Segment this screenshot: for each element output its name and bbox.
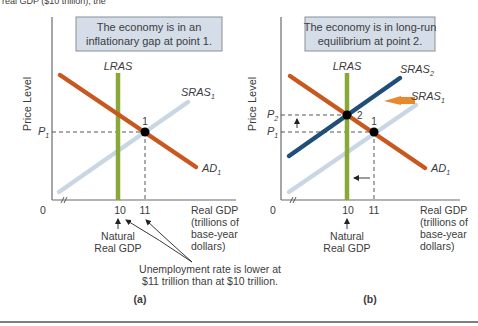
panel-b-x-axis-label: Real GDP (trillions of base-year dollars… [420, 204, 471, 252]
top-fragment-text: real GDP ($10 trillion), the [2, 0, 106, 6]
panel-b-ad1-label: AD1 [430, 162, 450, 176]
panel-a-origin-label: 0 [40, 204, 46, 216]
panel-b-p1-label: P1 [267, 125, 278, 139]
panel-b-box-line1: The economy is in long-run [304, 21, 437, 33]
panel-b-tick-10: 10 [342, 204, 354, 216]
panel-a-box-line2: inflationary gap at point 1. [86, 35, 212, 47]
panel-b-point-2 [343, 111, 352, 120]
panel-a-point-1-label: 1 [142, 116, 148, 127]
panel-b-lras-label: LRAS [333, 60, 362, 72]
panel-b-natural-line1: Natural [330, 230, 364, 242]
panel-a-callout-arrow-11-icon [146, 220, 192, 262]
panel-a-ad1-label: AD1 [201, 162, 221, 176]
panel-a-point-1 [141, 128, 150, 137]
figure: real GDP ($10 trillion), the The economy… [0, 0, 478, 326]
panel-b-point-2-label: 2 [357, 110, 363, 121]
panel-b-tick-11: 11 [369, 204, 380, 216]
panel-a-note-line2: $11 trillion than at $10 trillion. [142, 275, 278, 287]
panel-b-p2-label: P2 [267, 108, 278, 122]
panel-a-sras1-label: SRAS1 [181, 86, 215, 100]
panel-b-shift-arrow-icon [384, 96, 401, 105]
panel-a-note-line1: Unemployment rate is lower at [139, 263, 281, 275]
panel-a-tick-11: 11 [140, 204, 151, 216]
panel-b-point-1-label: 1 [371, 116, 377, 127]
panel-b-y-axis-label: Price Level [246, 77, 258, 131]
panel-a: The economy is in an inflationary gap at… [21, 17, 281, 305]
panel-a-box-line1: The economy is in an [97, 21, 202, 33]
panel-a-caption: (a) [134, 293, 147, 305]
panel-a-x-axis-label: Real GDP (trillions of base-year dollars… [191, 204, 242, 252]
panel-b-point-1 [370, 128, 379, 137]
panel-b-origin-label: 0 [270, 204, 276, 216]
panel-b-sras2-label: SRAS2 [400, 63, 434, 77]
panel-a-callout-arrow-10-icon [126, 220, 192, 262]
panel-a-natural-line2: Real GDP [94, 242, 141, 254]
panel-b-box-line2: equilibrium at point 2. [318, 35, 423, 47]
panel-a-lras-label: LRAS [104, 60, 133, 72]
panel-a-y-axis-label: Price Level [21, 77, 33, 131]
panel-a-tick-10: 10 [114, 204, 126, 216]
panel-b-caption: (b) [363, 293, 376, 305]
panel-a-p1-label: P1 [38, 125, 49, 139]
panel-b-ad1-curve [290, 76, 425, 168]
panel-a-natural-line1: Natural [101, 230, 135, 242]
panel-b-natural-line2: Real GDP [323, 242, 370, 254]
panel-b-sras1-label: SRAS1 [411, 90, 445, 104]
panel-a-ad1-curve [60, 75, 196, 167]
panel-b: The economy is in long-run equilibrium a… [246, 17, 471, 305]
